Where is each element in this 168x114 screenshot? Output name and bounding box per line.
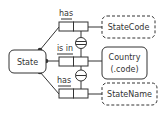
entity-country-refmode: (.code) bbox=[110, 65, 138, 74]
fact-reading: has bbox=[59, 9, 73, 18]
entity-statecode-label: StateCode bbox=[108, 23, 150, 32]
entity-statename[interactable]: StateName bbox=[102, 83, 157, 105]
external-uniqueness-constraint-icon[interactable] bbox=[76, 38, 87, 49]
fact-reading: has bbox=[57, 76, 71, 85]
entity-country-label: Country bbox=[109, 53, 141, 62]
external-uniqueness-constraint-icon[interactable] bbox=[76, 70, 87, 81]
orm-diagram: State has is in has StateCode Coun bbox=[0, 0, 168, 114]
entity-state-label: State bbox=[17, 58, 38, 67]
entity-statename-label: StateName bbox=[107, 90, 152, 99]
entity-statecode[interactable]: StateCode bbox=[102, 16, 155, 38]
entity-state[interactable]: State bbox=[9, 50, 46, 73]
entity-country[interactable]: Country (.code) bbox=[102, 47, 147, 79]
fact-reading: is in bbox=[57, 44, 73, 53]
fact-type-has-statecode[interactable]: has bbox=[59, 9, 88, 31]
